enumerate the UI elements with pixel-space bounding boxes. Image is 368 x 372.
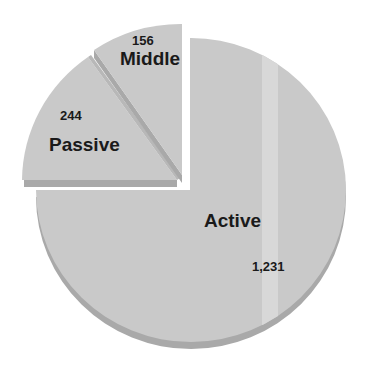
slice-passive-label: Passive [49, 134, 120, 156]
slice-active-label: Active [204, 210, 261, 232]
slice-passive-value: 244 [60, 108, 82, 123]
slice-active-value: 1,231 [252, 259, 285, 274]
slice-passive-rim [24, 180, 177, 187]
pie-chart [0, 0, 368, 372]
slice-middle-value: 156 [132, 33, 154, 48]
slice-middle-label: Middle [120, 48, 180, 70]
slice-active-highlight [262, 30, 278, 360]
